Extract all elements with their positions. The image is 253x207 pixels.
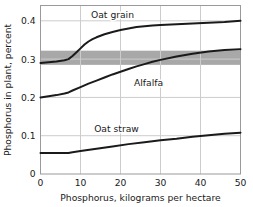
x-tick-label: 30	[155, 177, 167, 188]
y-tick-label: 0.2	[21, 92, 36, 103]
y-tick-label: 0.3	[21, 54, 36, 65]
y-axis-label: Phosphorus in plant, percent	[2, 24, 13, 157]
x-axis-label: Phosphorus, kilograms per hectare	[60, 192, 221, 203]
x-tick-label: 0	[38, 177, 44, 188]
x-tick-label: 10	[75, 177, 87, 188]
series-label-oat-straw: Oat straw	[94, 123, 139, 134]
x-tick-label: 40	[195, 177, 207, 188]
y-tick-label: 0.1	[21, 130, 36, 141]
x-tick-label: 20	[115, 177, 127, 188]
series-label-oat-grain: Oat grain	[91, 9, 134, 20]
x-tick-label: 50	[235, 177, 247, 188]
series-label-alfalfa: Alfalfa	[134, 77, 163, 88]
y-tick-label: 0.4	[21, 15, 36, 26]
chart-background	[0, 0, 253, 207]
y-tick-label: 0	[30, 168, 36, 179]
chart-figure: 01020304050 00.10.20.30.4 Phosphorus, ki…	[0, 0, 253, 207]
phosphorus-line-chart: 01020304050 00.10.20.30.4 Phosphorus, ki…	[0, 0, 253, 207]
